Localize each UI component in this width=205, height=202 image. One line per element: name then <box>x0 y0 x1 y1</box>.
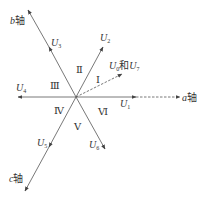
u4-label: U4 <box>16 82 26 94</box>
u0-u7-label: U0和U7 <box>109 60 139 72</box>
u6-label: U6 <box>89 139 99 151</box>
c-axis <box>25 147 49 191</box>
a-axis-label: a轴 <box>182 91 197 103</box>
sector-4-label: Ⅳ <box>54 105 65 116</box>
sector-3-label: Ⅲ <box>50 80 60 91</box>
u2-label: U2 <box>100 32 110 44</box>
b-axis <box>28 10 49 47</box>
u5-label: U5 <box>37 137 47 149</box>
b-axis-label: b轴 <box>10 14 25 26</box>
sector-1-label: Ⅰ <box>96 74 100 85</box>
space-vector-diagram: b轴 a轴 c轴 U1 U2 U3 U4 U5 U6 U0和U7 Ⅰ Ⅱ Ⅲ Ⅳ… <box>0 0 205 202</box>
u3-label: U3 <box>51 37 61 49</box>
sector-2-label: Ⅱ <box>76 64 83 75</box>
sector-6-label: Ⅵ <box>97 106 108 117</box>
u1-label: U1 <box>120 98 130 110</box>
sector-5-label: Ⅴ <box>73 121 82 132</box>
c-axis-label: c轴 <box>9 172 23 184</box>
